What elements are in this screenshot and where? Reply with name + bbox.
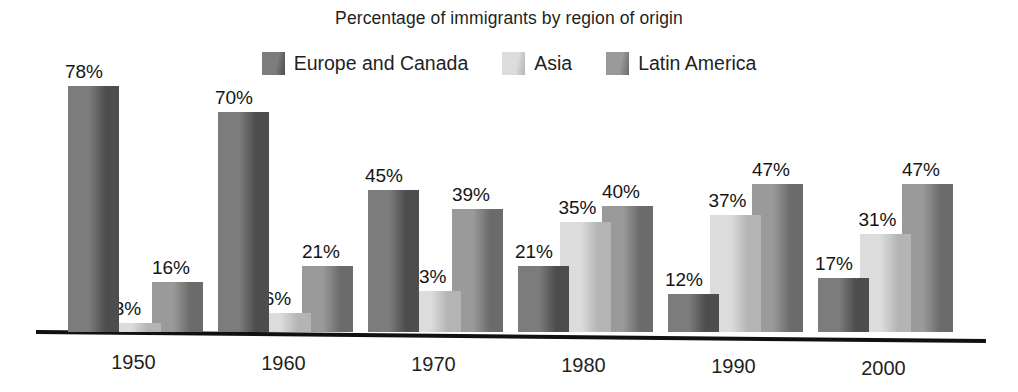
value-label: 17% (815, 254, 853, 273)
bar-side-face (490, 209, 503, 332)
bar-group-1990: 12%37%47% (668, 0, 803, 392)
bar-1970-europe-and-canada[interactable]: 45% (368, 190, 406, 332)
value-label: 21% (302, 242, 340, 261)
value-label: 35% (558, 198, 596, 217)
x-tick-label-2000: 2000 (861, 357, 906, 380)
value-label: 16% (152, 258, 190, 277)
value-label: 12% (665, 270, 703, 289)
x-tick-label-1980: 1980 (561, 354, 606, 377)
value-label: 40% (602, 182, 640, 201)
x-tick-label-1970: 1970 (411, 353, 456, 376)
bar-side-face (190, 282, 203, 332)
bar-side-face (706, 294, 719, 332)
bar-1960-europe-and-canada[interactable]: 70% (218, 112, 256, 333)
value-label: 37% (708, 191, 746, 210)
bar-side-face (406, 190, 419, 332)
bar-side-face (106, 86, 119, 332)
bar-side-face (898, 234, 911, 332)
bar-1950-europe-and-canada[interactable]: 78% (68, 86, 106, 332)
x-tick-label-1990: 1990 (711, 355, 756, 378)
bar-1980-europe-and-canada[interactable]: 21% (518, 266, 556, 332)
bar-front-face (518, 266, 556, 332)
bar-1990-europe-and-canada[interactable]: 12% (668, 294, 706, 332)
bar-front-face (368, 190, 406, 332)
bar-side-face (298, 313, 311, 332)
bar-side-face (940, 184, 953, 332)
value-label: 21% (515, 242, 553, 261)
bar-group-1980: 21%35%40% (518, 0, 653, 392)
bar-front-face (68, 86, 106, 332)
value-label: 70% (215, 88, 253, 107)
x-tick-label-1950: 1950 (111, 351, 156, 374)
bar-front-face (818, 278, 856, 332)
x-tick-label-1960: 1960 (261, 352, 306, 375)
bar-side-face (790, 184, 803, 332)
bar-side-face (856, 278, 869, 332)
bar-side-face (448, 291, 461, 332)
value-label: 47% (902, 160, 940, 179)
bar-side-face (340, 266, 353, 332)
bar-side-face (748, 215, 761, 332)
bar-side-face (256, 112, 269, 333)
bar-2000-europe-and-canada[interactable]: 17% (818, 278, 856, 332)
bar-chart: Percentage of immigrants by region of or… (0, 0, 1018, 392)
bar-side-face (598, 222, 611, 332)
bar-side-face (556, 266, 569, 332)
value-label: 31% (858, 210, 896, 229)
value-label: 39% (452, 185, 490, 204)
bar-group-2000: 17%31%47% (818, 0, 953, 392)
value-label: 45% (365, 166, 403, 185)
value-label: 47% (752, 160, 790, 179)
bar-side-face (640, 206, 653, 332)
bar-front-face (668, 294, 706, 332)
bar-side-face (148, 323, 161, 332)
bar-front-face (218, 112, 256, 333)
value-label: 78% (65, 62, 103, 81)
